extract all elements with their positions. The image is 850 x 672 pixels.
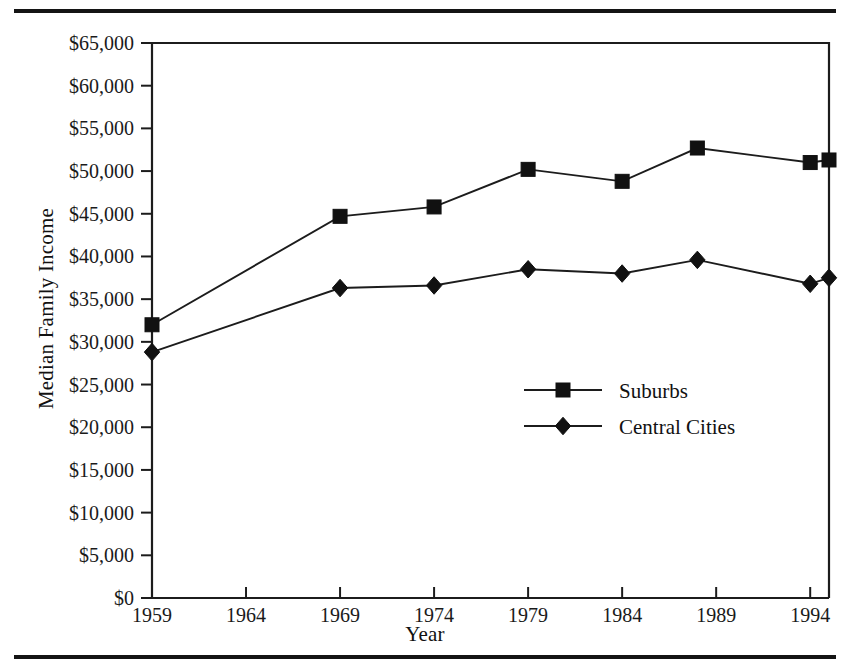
x-tick-label: 1959 xyxy=(132,604,172,626)
y-tick-label: $0 xyxy=(114,587,134,609)
series-line-central-cities xyxy=(152,260,829,352)
data-point-marker xyxy=(333,209,347,223)
data-point-marker xyxy=(145,318,159,332)
data-point-marker xyxy=(821,269,836,287)
data-point-marker xyxy=(803,156,817,170)
x-tick-label: 1964 xyxy=(226,604,266,626)
x-tick-label: 1989 xyxy=(696,604,736,626)
data-point-marker xyxy=(690,141,704,155)
data-point-marker xyxy=(144,343,159,361)
legend-label: Central Cities xyxy=(619,415,735,439)
y-tick-label: $60,000 xyxy=(69,75,134,97)
legend-marker-diamond xyxy=(555,417,570,435)
x-tick-label: 1969 xyxy=(320,604,360,626)
x-tick-label: 1974 xyxy=(414,604,454,626)
y-tick-label: $25,000 xyxy=(69,374,134,396)
y-tick-label: $65,000 xyxy=(69,32,134,54)
y-tick-label: $50,000 xyxy=(69,160,134,182)
y-tick-label: $5,000 xyxy=(79,544,134,566)
data-point-marker xyxy=(615,174,629,188)
data-series xyxy=(144,141,836,361)
y-tick-label: $55,000 xyxy=(69,117,134,139)
data-point-marker xyxy=(426,277,441,295)
data-point-marker xyxy=(427,200,441,214)
y-tick-label: $15,000 xyxy=(69,459,134,481)
data-point-marker xyxy=(614,265,629,283)
legend-label: Suburbs xyxy=(619,379,688,403)
data-point-marker xyxy=(822,153,836,167)
data-point-marker xyxy=(332,279,347,297)
series-line-suburbs xyxy=(152,148,829,325)
line-chart-plot: $0$5,000$10,000$15,000$20,000$25,000$30,… xyxy=(0,0,850,672)
chart-legend: SuburbsCentral Cities xyxy=(524,379,735,439)
legend-marker-square xyxy=(556,383,570,397)
x-tick-label: 1984 xyxy=(602,604,642,626)
x-axis-ticks: 19591964196919741979198419891994 xyxy=(132,587,830,626)
y-axis-ticks: $0$5,000$10,000$15,000$20,000$25,000$30,… xyxy=(69,32,152,609)
x-tick-label: 1994 xyxy=(790,604,830,626)
data-point-marker xyxy=(521,162,535,176)
axis-lines xyxy=(152,43,829,598)
chart-figure: Median Family Income Year $0$5,000$10,00… xyxy=(0,0,850,672)
y-tick-label: $10,000 xyxy=(69,502,134,524)
y-tick-label: $45,000 xyxy=(69,203,134,225)
data-point-marker xyxy=(520,261,535,279)
y-tick-label: $35,000 xyxy=(69,288,134,310)
y-tick-label: $30,000 xyxy=(69,331,134,353)
data-point-marker xyxy=(690,251,705,269)
y-tick-label: $20,000 xyxy=(69,416,134,438)
y-tick-label: $40,000 xyxy=(69,245,134,267)
data-point-marker xyxy=(802,275,817,293)
x-tick-label: 1979 xyxy=(508,604,548,626)
